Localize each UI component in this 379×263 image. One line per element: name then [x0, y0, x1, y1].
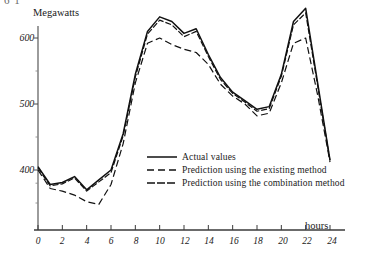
chart-legend: Actual values Prediction using the exist…: [146, 150, 345, 189]
legend-label-existing: Prediction using the existing method: [182, 165, 327, 175]
axes: [34, 26, 345, 230]
plot-area: [0, 0, 379, 263]
legend-item-combination: Prediction using the combination method: [146, 176, 345, 189]
legend-item-existing: Prediction using the existing method: [146, 163, 345, 176]
legend-swatch-long-dash-icon: [146, 165, 178, 175]
legend-item-actual: Actual values: [146, 150, 345, 163]
legend-label-actual: Actual values: [182, 152, 236, 162]
legend-swatch-solid-icon: [146, 152, 178, 162]
legend-label-combination: Prediction using the combination method: [182, 178, 345, 188]
x-tick-marks: [38, 225, 330, 230]
legend-swatch-dash-icon: [146, 178, 178, 188]
y-tick-marks: [34, 38, 38, 203]
power-load-forecast-chart: 6 1 Megawatts hours 600 500 400 0 2 4 6 …: [0, 0, 379, 263]
